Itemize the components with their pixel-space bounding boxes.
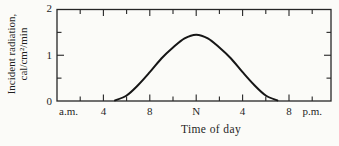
incident-radiation-curve xyxy=(115,35,277,101)
y-tick-label: 2 xyxy=(38,2,52,14)
y-tick-label: 1 xyxy=(38,49,52,61)
x-tick-label: a.m. xyxy=(59,105,78,117)
plot-frame xyxy=(57,10,331,102)
y-tick-label: 0 xyxy=(38,95,52,107)
y-axis-label-line1: Incident radiation, xyxy=(5,0,17,118)
x-tick-label: 8 xyxy=(286,105,292,117)
x-tick-label: 4 xyxy=(240,105,246,117)
radiation-chart-canvas xyxy=(0,0,339,146)
y-axis-label-line2: cal/cm²/min xyxy=(17,0,29,118)
y-axis-label: Incident radiation, cal/cm²/min xyxy=(5,0,29,118)
x-tick-label: 8 xyxy=(147,105,153,117)
radiation-figure: Incident radiation, cal/cm²/min Time of … xyxy=(0,0,339,146)
x-tick-label: 4 xyxy=(101,105,107,117)
x-tick-label: p.m. xyxy=(302,105,322,117)
x-axis-label: Time of day xyxy=(181,123,241,135)
x-tick-label: N xyxy=(192,105,200,117)
